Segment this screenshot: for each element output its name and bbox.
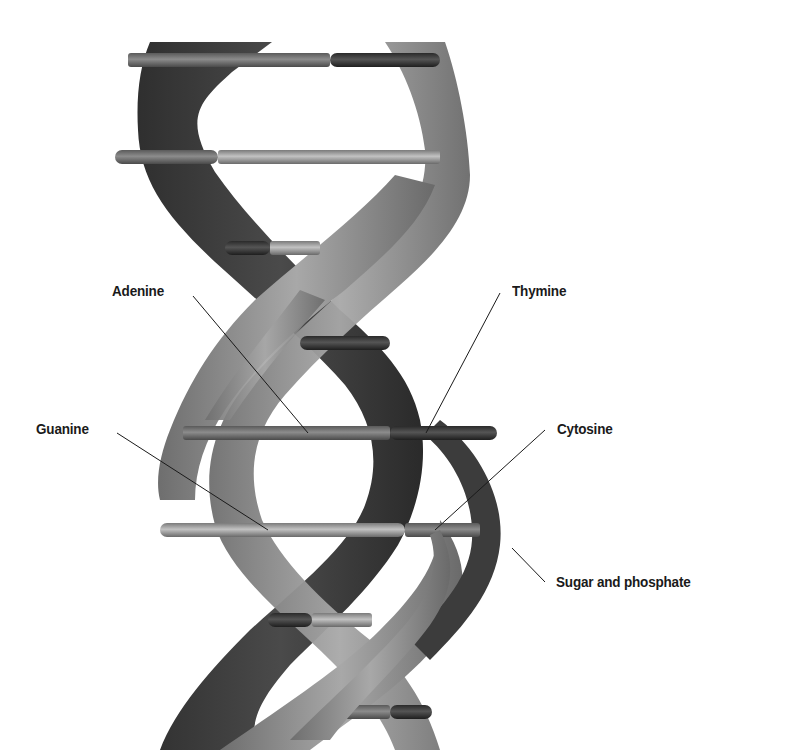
label-guanine: Guanine <box>36 420 89 437</box>
base-pair-rung <box>128 53 440 67</box>
base-pair-rung <box>268 613 372 627</box>
label-cytosine: Cytosine <box>557 420 613 437</box>
base-pair-rung <box>300 336 390 350</box>
base-pair-rung <box>115 150 440 164</box>
base-pair-adenine-thymine <box>183 426 497 440</box>
dna-diagram: Adenine Thymine Guanine Cytosine Sugar a… <box>0 0 792 751</box>
front-strand <box>158 42 501 750</box>
cytosine-rod <box>405 523 480 537</box>
label-thymine: Thymine <box>512 282 566 299</box>
base-pair-rung <box>225 241 320 255</box>
base-pair-rung <box>345 705 432 719</box>
thymine-rod <box>390 426 497 440</box>
adenine-rod <box>183 426 390 440</box>
sugar-phosphate-leader-line <box>512 548 545 582</box>
dna-helix-illustration <box>0 0 792 751</box>
thymine-leader-line <box>426 293 500 433</box>
guanine-rod <box>160 523 405 537</box>
label-adenine: Adenine <box>112 282 164 299</box>
label-sugar-and-phosphate: Sugar and phosphate <box>556 573 691 590</box>
